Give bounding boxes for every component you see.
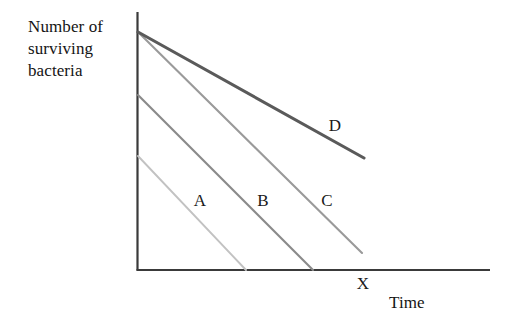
x-axis-title: Time bbox=[389, 292, 425, 314]
series-label-d: D bbox=[324, 116, 346, 136]
bacteria-survival-chart: Number of surviving bacteria Time A B C … bbox=[0, 0, 515, 324]
series-line-d bbox=[138, 32, 364, 158]
series-label-b: B bbox=[252, 191, 274, 211]
y-axis-title: Number of surviving bacteria bbox=[28, 16, 136, 82]
series-label-a: A bbox=[189, 191, 211, 211]
x-axis-point-label-x: X bbox=[353, 274, 373, 294]
series-line-c bbox=[138, 32, 362, 253]
series-line-a bbox=[138, 156, 246, 270]
series-label-c: C bbox=[316, 191, 338, 211]
